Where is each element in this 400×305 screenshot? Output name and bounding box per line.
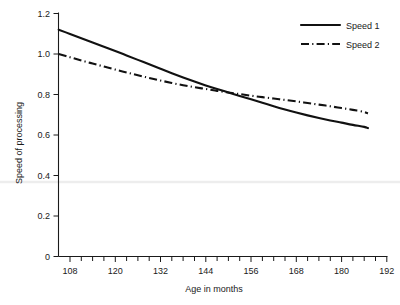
- series-line-speed-2: [59, 54, 368, 114]
- legend-label-speed-2: Speed 2: [346, 40, 380, 50]
- y-axis: 0 0.2 0.4 0.6 0.8 1.0 1.2 Speed of proce…: [14, 9, 59, 262]
- x-axis: 108 120 132 144 156 168 180 192 Age in m…: [59, 257, 395, 295]
- y-tick-label-1-2: 1.2: [37, 9, 50, 19]
- x-tick-label-168: 168: [289, 266, 304, 276]
- legend-entry-speed-1: Speed 1: [301, 21, 380, 31]
- y-tick-label-0-8: 0.8: [37, 90, 50, 100]
- line-chart: 0 0.2 0.4 0.6 0.8 1.0 1.2 Speed of proce…: [0, 0, 400, 305]
- chart-legend: Speed 1 Speed 2: [301, 21, 380, 50]
- y-tick-label-0-6: 0.6: [37, 130, 50, 140]
- x-tick-label-192: 192: [379, 266, 394, 276]
- y-tick-label-0-2: 0.2: [37, 211, 50, 221]
- y-axis-title: Speed of processing: [14, 102, 24, 184]
- chart-figure: 0 0.2 0.4 0.6 0.8 1.0 1.2 Speed of proce…: [0, 0, 400, 305]
- x-tick-label-132: 132: [153, 266, 168, 276]
- x-axis-title: Age in months: [185, 284, 243, 294]
- x-tick-label-144: 144: [198, 266, 213, 276]
- y-tick-label-1-0: 1.0: [37, 49, 50, 59]
- x-tick-label-156: 156: [243, 266, 258, 276]
- y-tick-label-0: 0: [45, 252, 50, 262]
- x-tick-label-120: 120: [108, 266, 123, 276]
- x-tick-label-180: 180: [334, 266, 349, 276]
- legend-label-speed-1: Speed 1: [346, 21, 380, 31]
- x-minor-ticks: [70, 257, 387, 263]
- legend-entry-speed-2: Speed 2: [301, 40, 380, 50]
- x-tick-label-108: 108: [62, 266, 77, 276]
- y-tick-label-0-4: 0.4: [37, 171, 50, 181]
